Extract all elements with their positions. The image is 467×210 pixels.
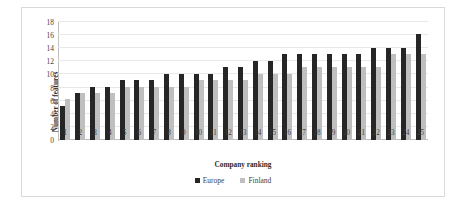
x-tick-label-12: 12 [221, 129, 236, 137]
bar-group [132, 22, 147, 140]
legend-item-finland[interactable]: Finland [240, 176, 271, 185]
y-tick-label-18: 18 [47, 18, 55, 27]
y-tick-label-16: 16 [47, 31, 55, 40]
x-tick-label-25: 25 [413, 129, 428, 137]
bar-group [88, 22, 103, 140]
bar-group [310, 22, 325, 140]
x-tick-label-7: 7 [147, 129, 162, 137]
x-tick-label-23: 23 [384, 129, 399, 137]
x-tick-label-2: 2 [73, 129, 88, 137]
y-tick-label-10: 10 [47, 70, 55, 79]
bar-group [102, 22, 117, 140]
bar-group [339, 22, 354, 140]
bar-group [324, 22, 339, 140]
y-tick-label-8: 8 [50, 83, 54, 92]
x-tick-label-20: 20 [339, 129, 354, 137]
x-axis-title: Company ranking [58, 160, 428, 169]
bar-group [117, 22, 132, 140]
legend-swatch-icon-finland [240, 178, 245, 183]
legend-label-europe: Europe [203, 176, 225, 185]
x-tick-label-17: 17 [295, 129, 310, 137]
legend-label-finland: Finland [248, 176, 271, 185]
bar-group [162, 22, 177, 140]
y-tick-label-12: 12 [47, 57, 55, 66]
bar-finland[interactable] [406, 54, 411, 140]
y-tick-label-2: 2 [50, 122, 54, 131]
bar-group [398, 22, 413, 140]
y-tick-label-6: 6 [50, 96, 54, 105]
y-tick-label-4: 4 [50, 109, 54, 118]
bar-group [280, 22, 295, 140]
x-tick-label-24: 24 [398, 129, 413, 137]
bar-group [206, 22, 221, 140]
bar-group [413, 22, 428, 140]
bar-group [147, 22, 162, 140]
chart-legend: Europe Finland [22, 176, 444, 185]
y-tick-label-14: 14 [47, 44, 55, 53]
x-tick-label-4: 4 [102, 129, 117, 137]
bar-finland[interactable] [421, 54, 426, 140]
x-tick-label-11: 11 [206, 129, 221, 137]
x-tick-label-22: 22 [369, 129, 384, 137]
x-tick-label-6: 6 [132, 129, 147, 137]
bar-group [265, 22, 280, 140]
bar-group [58, 22, 73, 140]
bar-group [369, 22, 384, 140]
bar-group [295, 22, 310, 140]
legend-swatch-icon-europe [195, 178, 200, 183]
x-tick-label-21: 21 [354, 129, 369, 137]
x-tick-label-10: 10 [191, 129, 206, 137]
bar-group [250, 22, 265, 140]
bar-finland[interactable] [391, 54, 396, 140]
bar-group [384, 22, 399, 140]
x-tick-label-8: 8 [162, 129, 177, 137]
legend-item-europe[interactable]: Europe [195, 176, 225, 185]
bar-group [354, 22, 369, 140]
x-tick-label-18: 18 [310, 129, 325, 137]
bar-group [221, 22, 236, 140]
bar-group [191, 22, 206, 140]
x-tick-label-15: 15 [265, 129, 280, 137]
x-tick-label-16: 16 [280, 129, 295, 137]
x-tick-label-19: 19 [324, 129, 339, 137]
bar-group [176, 22, 191, 140]
x-tick-label-5: 5 [117, 129, 132, 137]
x-tick-label-1: 1 [58, 129, 73, 137]
x-tick-label-3: 3 [88, 129, 103, 137]
x-tick-label-13: 13 [236, 129, 251, 137]
x-tick-label-14: 14 [250, 129, 265, 137]
bar-group [73, 22, 88, 140]
chart-figure: Number of features 024681012141618 12345… [21, 7, 445, 197]
y-tick-label-0: 0 [50, 136, 54, 145]
bar-group [236, 22, 251, 140]
x-tick-label-9: 9 [176, 129, 191, 137]
plot-area: 024681012141618 [58, 22, 428, 140]
